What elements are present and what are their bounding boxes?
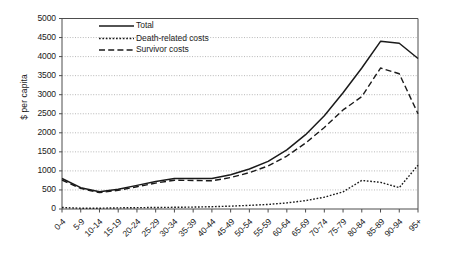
chart-container: $ per capita 050010001500200025003000350… [0,0,449,265]
plot-area [0,0,449,265]
series-line-total [62,41,418,191]
series-line-survivor-costs [62,68,418,193]
